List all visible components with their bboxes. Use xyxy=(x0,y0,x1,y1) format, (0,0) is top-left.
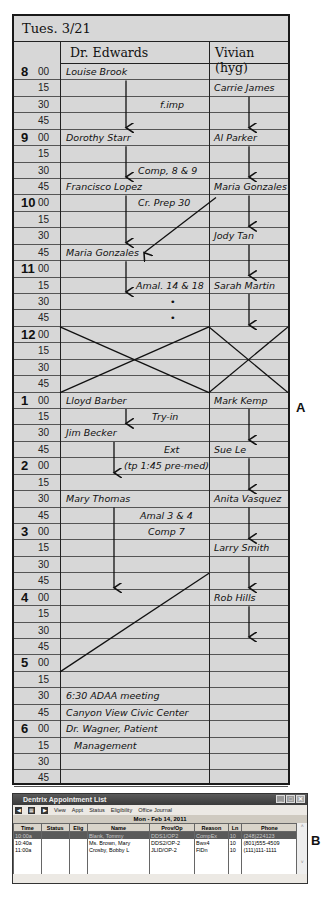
table-cell xyxy=(69,832,87,840)
table-cell xyxy=(150,867,195,874)
table-cell xyxy=(87,867,149,874)
appointment-list-window: Dentrix Appointment List _ □ ✕ ◀ ▦ ▶ Vie… xyxy=(12,793,308,884)
table-cell: (111)111-1111 xyxy=(242,846,297,853)
menu-appt[interactable]: Appt xyxy=(72,807,83,813)
window-title: Dentrix Appointment List xyxy=(23,796,106,803)
table-row[interactable] xyxy=(14,853,297,860)
table-cell xyxy=(69,846,87,853)
list-date: Mon - Feb 14, 2011 xyxy=(13,815,307,823)
figure-label-a: A xyxy=(296,400,305,415)
table-cell: 10:40a xyxy=(14,839,42,846)
table-cell xyxy=(87,853,149,860)
prev-day-icon[interactable]: ◀ xyxy=(15,807,22,814)
table-cell xyxy=(87,860,149,867)
table-cell xyxy=(41,832,69,840)
calendar-icon[interactable]: ▦ xyxy=(28,807,35,814)
table-cell: Bwx4 xyxy=(195,839,229,846)
table-cell: DDS2/OP-2 xyxy=(150,839,195,846)
vertical-scrollbar[interactable]: ˄ ˅ xyxy=(297,823,307,874)
table-cell xyxy=(41,867,69,874)
table-cell xyxy=(41,839,69,846)
window-titlebar[interactable]: Dentrix Appointment List _ □ ✕ xyxy=(13,794,307,805)
appointment-table: TimeStatusEligNameProv/OpReasonLnPhone 1… xyxy=(13,823,297,874)
menu-status[interactable]: Status xyxy=(89,807,105,813)
table-cell xyxy=(242,853,297,860)
column-header[interactable]: Prov/Op xyxy=(150,824,195,832)
table-cell: CompEx xyxy=(195,832,229,840)
table-row[interactable]: 10:00aBlank, TommyDDS1/OP2CompEx10(248)2… xyxy=(14,832,297,840)
column-header[interactable]: Phone xyxy=(242,824,297,832)
column-header[interactable]: Time xyxy=(14,824,42,832)
figure-label-b: B xyxy=(311,833,320,848)
table-cell xyxy=(69,839,87,846)
table-cell: Ms. Brown, Mary xyxy=(87,839,149,846)
table-cell xyxy=(195,853,229,860)
table-cell xyxy=(228,860,242,867)
menu-bar: ◀ ▦ ▶ View Appt Status Eligibility Offic… xyxy=(13,805,307,815)
column-header[interactable]: Reason xyxy=(195,824,229,832)
table-cell xyxy=(69,853,87,860)
table-cell: JLID/OP-2 xyxy=(150,846,195,853)
column-header[interactable]: Ln xyxy=(228,824,242,832)
pen-marks xyxy=(14,16,288,783)
table-cell: (248)224123 xyxy=(242,832,297,840)
table-cell xyxy=(14,867,42,874)
table-cell: Crosby, Bobby L xyxy=(87,846,149,853)
table-cell xyxy=(195,867,229,874)
next-day-icon[interactable]: ▶ xyxy=(41,807,48,814)
menu-office-journal[interactable]: Office Journal xyxy=(138,807,172,813)
table-cell xyxy=(150,860,195,867)
menu-view[interactable]: View xyxy=(54,807,66,813)
menu-eligibility[interactable]: Eligibility xyxy=(111,807,132,813)
minimize-button[interactable]: _ xyxy=(276,795,285,803)
table-cell: FlDn xyxy=(195,846,229,853)
table-cell xyxy=(242,867,297,874)
table-cell xyxy=(41,860,69,867)
table-cell xyxy=(14,860,42,867)
table-cell xyxy=(14,853,42,860)
scroll-down-icon[interactable]: ˅ xyxy=(297,859,307,865)
table-cell xyxy=(150,853,195,860)
column-header[interactable]: Elig xyxy=(69,824,87,832)
table-cell xyxy=(228,867,242,874)
table-cell: 10 xyxy=(228,846,242,853)
table-cell: 11:00a xyxy=(14,846,42,853)
table-cell: 10 xyxy=(228,839,242,846)
column-header[interactable]: Name xyxy=(87,824,149,832)
table-cell: 10 xyxy=(228,832,242,840)
table-row[interactable] xyxy=(14,860,297,867)
appointment-book-page: Tues. 3/21 Dr. Edwards Vivian (hyg) 8001… xyxy=(12,14,290,785)
close-button[interactable]: ✕ xyxy=(296,795,305,803)
table-cell xyxy=(69,860,87,867)
table-cell: 10:00a xyxy=(14,832,42,840)
table-cell xyxy=(69,867,87,874)
table-cell xyxy=(242,860,297,867)
table-cell xyxy=(41,853,69,860)
table-cell xyxy=(41,846,69,853)
table-cell: (801)555-4509 xyxy=(242,839,297,846)
table-cell: Blank, Tommy xyxy=(87,832,149,840)
table-cell: DDS1/OP2 xyxy=(150,832,195,840)
maximize-button[interactable]: □ xyxy=(286,795,295,803)
table-row[interactable]: 11:00aCrosby, Bobby LJLID/OP-2FlDn10(111… xyxy=(14,846,297,853)
table-cell xyxy=(228,853,242,860)
column-header[interactable]: Status xyxy=(41,824,69,832)
table-row[interactable] xyxy=(14,867,297,874)
table-row[interactable]: 10:40aMs. Brown, MaryDDS2/OP-2Bwx410(801… xyxy=(14,839,297,846)
table-cell xyxy=(195,860,229,867)
